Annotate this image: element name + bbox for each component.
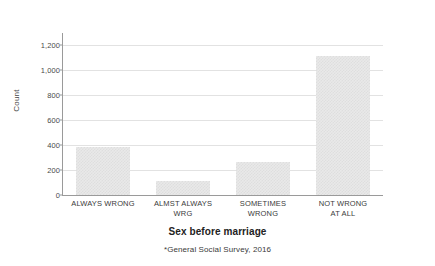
x-tick-label-line: AT ALL <box>303 209 383 219</box>
x-axis-title: Sex before marriage <box>0 226 435 237</box>
bar <box>236 162 290 196</box>
x-tick-label: ALWAYS WRONG <box>63 199 143 209</box>
bar <box>156 181 210 195</box>
x-axis-labels: ALWAYS WRONGALMST ALWAYSWRGSOMETIMESWRON… <box>63 199 383 225</box>
x-tick-label-line: NOT WRONG <box>319 199 368 208</box>
x-tick-label: NOT WRONGAT ALL <box>303 199 383 219</box>
y-tick-label: 200 <box>14 166 60 175</box>
y-tick-label: 400 <box>14 141 60 150</box>
y-tick-label: 0 <box>14 191 60 200</box>
y-axis-ticks: 02004006008001,0001,200 <box>8 35 60 195</box>
x-tick-label-line: WRONG <box>223 209 303 219</box>
bar <box>316 56 370 195</box>
x-tick-label-line: WRG <box>143 209 223 219</box>
y-tick-label: 1,200 <box>14 41 60 50</box>
x-tick-label-line: SOMETIMES <box>240 199 286 208</box>
bars-group <box>63 35 383 195</box>
x-tick-label-line: ALWAYS WRONG <box>71 199 134 208</box>
x-axis-baseline <box>63 195 383 196</box>
y-tick-label: 600 <box>14 116 60 125</box>
chart-footnote: *General Social Survey, 2016 <box>0 245 435 254</box>
x-tick-label: SOMETIMESWRONG <box>223 199 303 219</box>
y-tick-label: 1,000 <box>14 66 60 75</box>
y-tick-label: 800 <box>14 91 60 100</box>
x-tick-label: ALMST ALWAYSWRG <box>143 199 223 219</box>
plot-area <box>63 35 383 195</box>
bar-chart: Count 02004006008001,0001,200 ALWAYS WRO… <box>0 0 435 266</box>
bar <box>76 147 130 195</box>
x-tick-label-line: ALMST ALWAYS <box>154 199 212 208</box>
